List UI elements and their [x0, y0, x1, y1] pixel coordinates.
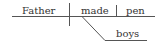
modifier-diagonal	[82, 17, 105, 41]
object-word: pen	[126, 5, 145, 16]
sentence-diagram: Father made pen boys	[0, 0, 162, 44]
verb-word: made	[81, 5, 109, 16]
subject-word: Father	[22, 5, 56, 16]
modifier-word: boys	[116, 28, 139, 39]
